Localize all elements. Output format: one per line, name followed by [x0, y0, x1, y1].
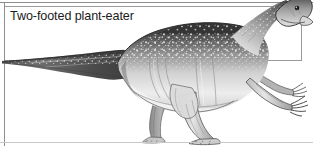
forelimb-near	[246, 78, 308, 116]
bottom-rule	[0, 142, 313, 143]
figure-panel: Two-footed plant-eater	[0, 0, 313, 146]
dinosaur-illustration	[0, 0, 313, 146]
